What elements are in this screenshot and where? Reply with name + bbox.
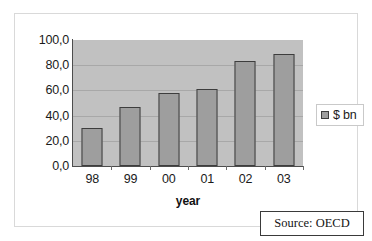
y-axis-tick-label: 60,0 bbox=[21, 84, 69, 96]
x-axis-tickmark bbox=[303, 166, 304, 170]
x-axis-title: year bbox=[73, 194, 303, 208]
y-axis-tick-label: 0,0 bbox=[21, 160, 69, 172]
x-axis-tick-label: 02 bbox=[239, 172, 253, 186]
x-axis-tickmark bbox=[226, 166, 227, 170]
y-axis: 100,080,060,040,020,00,0 bbox=[21, 40, 69, 172]
plot-area bbox=[73, 40, 303, 166]
bar[interactable] bbox=[82, 128, 103, 166]
bar[interactable] bbox=[273, 54, 294, 166]
x-axis-tick-label: 98 bbox=[85, 172, 99, 186]
x-axis-tickmark bbox=[111, 166, 112, 170]
bar[interactable] bbox=[120, 107, 141, 166]
x-axis-tick-label: 01 bbox=[200, 172, 214, 186]
y-axis-tick-label: 40,0 bbox=[21, 110, 69, 122]
x-axis-tick-label: 03 bbox=[277, 172, 291, 186]
x-axis-tick-label: 00 bbox=[162, 172, 176, 186]
bar-slot bbox=[265, 40, 303, 166]
y-axis-line bbox=[72, 39, 73, 167]
bar-slot bbox=[150, 40, 188, 166]
bar-slot bbox=[73, 40, 111, 166]
chart-legend: $ bn bbox=[316, 104, 364, 126]
source-note-text: Source: OECD bbox=[274, 216, 349, 231]
x-axis-tickmark bbox=[150, 166, 151, 170]
bar[interactable] bbox=[158, 93, 179, 166]
x-axis-tickmark bbox=[188, 166, 189, 170]
legend-label: $ bn bbox=[333, 108, 357, 122]
bar[interactable] bbox=[235, 61, 256, 166]
y-axis-tick-label: 20,0 bbox=[21, 135, 69, 147]
x-axis-tickmark bbox=[265, 166, 266, 170]
chart-container: 100,080,060,040,020,00,0 989900010203 ye… bbox=[14, 13, 358, 227]
x-axis: 989900010203 bbox=[73, 172, 303, 190]
bar-slot bbox=[226, 40, 264, 166]
source-note-box: Source: OECD bbox=[260, 211, 364, 236]
bars-layer bbox=[73, 40, 303, 166]
y-axis-tick-label: 80,0 bbox=[21, 59, 69, 71]
bar-slot bbox=[111, 40, 149, 166]
bar-slot bbox=[188, 40, 226, 166]
y-axis-tick-label: 100,0 bbox=[21, 34, 69, 46]
bar[interactable] bbox=[197, 89, 218, 166]
legend-swatch-icon bbox=[321, 111, 329, 119]
x-axis-tick-label: 99 bbox=[124, 172, 138, 186]
